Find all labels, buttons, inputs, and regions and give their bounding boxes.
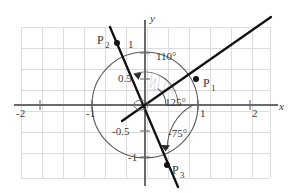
y-axis-label: y [149,12,155,24]
point-label-p1-text: P [203,76,210,90]
math-plot: x y -2 -1 1 2 1 0.5 -0.5 -1 110° 125° -7… [0,0,291,193]
x-tick-label--2: -2 [16,107,25,119]
point-label-p3-sub: 3 [180,170,185,180]
point-label-p2-sub: 2 [105,40,110,50]
x-axis-label: x [278,100,284,112]
point-p1-dot [193,76,199,82]
point-p2-dot [114,40,120,46]
y-tick-label--1: -1 [128,151,137,163]
angle-label-minus-75: -75° [168,127,187,139]
angle-label-125: 125° [165,96,186,108]
figure-canvas: x y -2 -1 1 2 1 0.5 -0.5 -1 110° 125° -7… [0,0,291,193]
point-p3-dot [164,162,170,168]
y-tick-label-0.5: 0.5 [118,72,132,84]
faint-watermark [148,72,178,94]
y-tick-label--0.5: -0.5 [112,125,130,137]
x-tick-label--1: -1 [86,107,95,119]
y-tick-label-1: 1 [128,38,134,50]
point-label-p2-text: P [97,33,104,47]
point-label-p1-sub: 1 [211,83,216,93]
angle-label-110: 110° [156,50,177,62]
x-tick-label-2: 2 [252,107,258,119]
point-label-p2: P 2 [97,33,110,50]
point-label-p3-text: P [172,163,179,177]
x-tick-label-1: 1 [200,107,206,119]
